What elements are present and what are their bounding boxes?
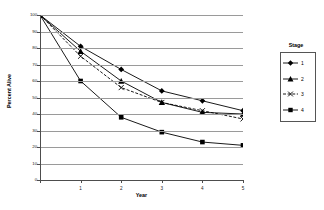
y-tick-label: 80: [3, 46, 37, 50]
legend-item-label: 3: [301, 91, 304, 97]
legend-box: 1234: [280, 52, 316, 122]
y-tick-label: 100: [3, 13, 37, 17]
legend-marker-icon: [281, 89, 300, 99]
y-tick-label: 0: [3, 178, 37, 182]
gridline: [40, 48, 243, 49]
x-tick-label: 5: [233, 186, 253, 191]
legend-item-1[interactable]: 1: [281, 56, 315, 70]
y-tick-label: 10: [3, 161, 37, 165]
legend-item-4[interactable]: 4: [281, 103, 315, 117]
gridline: [40, 15, 243, 16]
legend-marker-icon: [281, 74, 300, 84]
gridline: [40, 65, 243, 66]
x-tick-label: 2: [111, 186, 131, 191]
x-tick-mark: [243, 180, 244, 183]
gridline: [40, 98, 243, 99]
legend-item-label: 1: [301, 60, 304, 66]
gridline: [40, 131, 243, 132]
gridline: [40, 81, 243, 82]
data-point: [119, 115, 124, 120]
plot-area: [40, 15, 243, 180]
series-line: [40, 15, 243, 111]
y-tick-label: 90: [3, 29, 37, 33]
y-tick-label: 20: [3, 145, 37, 149]
x-tick-label: 4: [192, 186, 212, 191]
gridline: [40, 114, 243, 115]
legend-marker-icon: [281, 58, 300, 68]
data-point: [78, 54, 83, 59]
gridline: [40, 164, 243, 165]
data-point: [119, 85, 124, 90]
legend-marker-icon: [281, 105, 300, 115]
x-tick-mark: [121, 180, 122, 183]
series-2: [40, 15, 243, 117]
gridline: [40, 147, 243, 148]
data-point: [118, 67, 124, 73]
survival-line-chart: 1009080706050403020100 12345 Year Percen…: [0, 0, 324, 210]
x-tick-mark: [40, 180, 41, 183]
y-axis-title: Percent Alive: [6, 51, 12, 131]
legend-item-2[interactable]: 2: [281, 72, 315, 86]
x-tick-label: 1: [71, 186, 91, 191]
x-tick-mark: [202, 180, 203, 183]
x-axis-title: Year: [40, 192, 243, 198]
gridline: [40, 32, 243, 33]
y-axis-line: [40, 15, 41, 180]
legend-item-label: 4: [301, 107, 304, 113]
data-point: [240, 116, 243, 121]
legend-item-label: 2: [301, 76, 304, 82]
legend-title: Stage: [272, 42, 320, 48]
data-point: [159, 88, 165, 94]
data-point: [200, 98, 206, 104]
data-point: [200, 140, 205, 145]
legend-item-3[interactable]: 3: [281, 87, 315, 101]
x-tick-mark: [81, 180, 82, 183]
x-tick-label: 3: [152, 186, 172, 191]
x-tick-mark: [162, 180, 163, 183]
